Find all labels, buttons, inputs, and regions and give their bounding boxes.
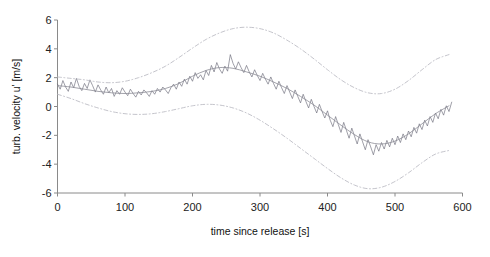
y-tick-label: 2 xyxy=(45,72,51,84)
x-axis-title-text: time since release [s] xyxy=(211,225,310,237)
axes xyxy=(54,20,463,197)
y-tick-label: 0 xyxy=(45,101,51,113)
series-path-signal xyxy=(58,55,452,155)
x-tick-label: 400 xyxy=(318,201,336,213)
y-axis-title-text: turb. velocity u' [m/s] xyxy=(10,59,22,154)
y-tick-label: -6 xyxy=(42,187,52,199)
x-tick-label: 100 xyxy=(116,201,134,213)
x-tick-label: 600 xyxy=(453,201,471,213)
x-tick-label: 0 xyxy=(54,201,60,213)
series-path-envelope-2 xyxy=(58,27,450,94)
series-path-mean xyxy=(58,67,450,144)
y-tick-label: -4 xyxy=(42,158,52,170)
y-tick-label: -2 xyxy=(42,129,52,141)
y-tick-label: 4 xyxy=(45,43,51,55)
chart-figure: -6-4-202460100200300400500600time since … xyxy=(0,0,490,257)
axis-spines xyxy=(58,20,463,193)
axis-labels: -6-4-202460100200300400500600time since … xyxy=(10,14,472,237)
y-tick-label: 6 xyxy=(45,14,51,26)
x-tick-label: 500 xyxy=(386,201,404,213)
x-tick-label: 300 xyxy=(251,201,269,213)
series-path-envelope-3 xyxy=(58,94,450,189)
chart-svg: -6-4-202460100200300400500600time since … xyxy=(0,0,490,257)
x-tick-label: 200 xyxy=(183,201,201,213)
data-series xyxy=(58,27,452,189)
